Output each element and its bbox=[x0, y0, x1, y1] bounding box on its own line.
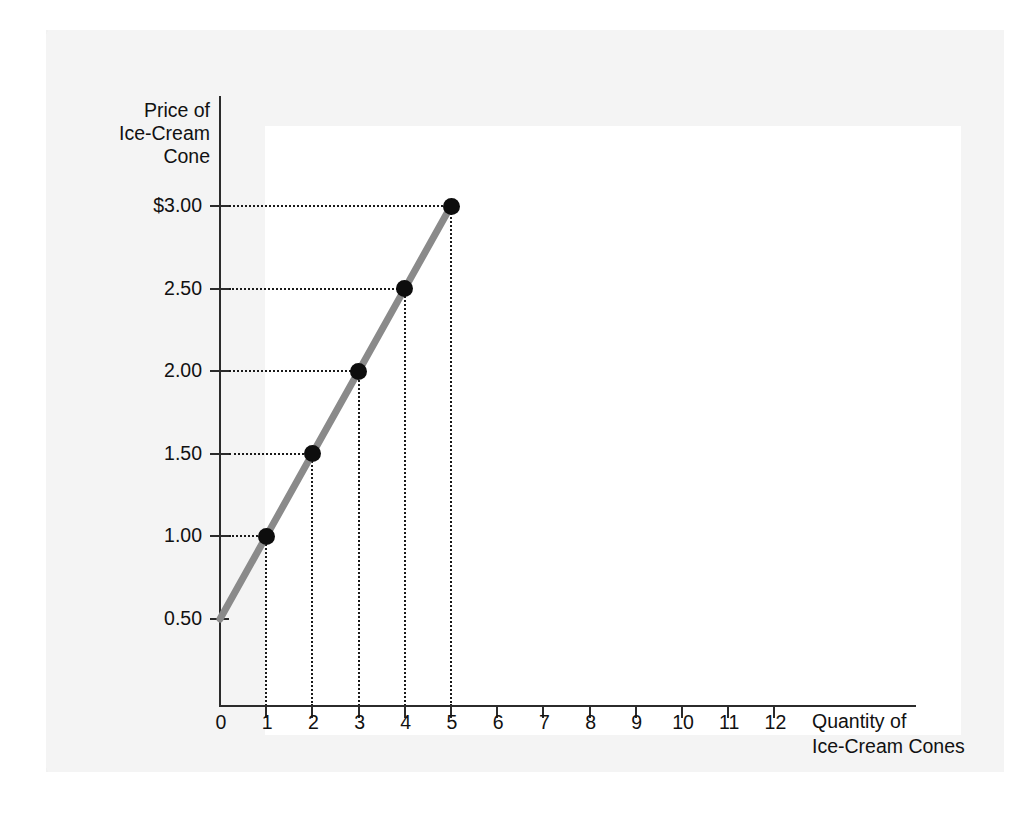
x-tick-label: 6 bbox=[478, 711, 518, 733]
x-tick-label: 12 bbox=[755, 711, 795, 733]
x-tick-label: 1 bbox=[247, 711, 287, 733]
x-tick-label: 5 bbox=[432, 711, 472, 733]
y-axis-line bbox=[219, 96, 221, 707]
x-tick-label: 4 bbox=[386, 711, 426, 733]
x-tick-label: 7 bbox=[524, 711, 564, 733]
y-tick-label: 2.50 bbox=[90, 279, 202, 299]
y-tick-mark bbox=[210, 453, 229, 455]
y-tick-label: $3.00 bbox=[90, 196, 202, 216]
x-tick-label: 11 bbox=[709, 711, 749, 733]
x-tick-label: 10 bbox=[663, 711, 703, 733]
x-tick-label: 0 bbox=[201, 711, 241, 733]
y-tick-mark bbox=[210, 618, 229, 620]
plot-area-background bbox=[265, 126, 961, 735]
x-axis-line bbox=[219, 705, 916, 707]
y-axis-title: Price of Ice-Cream Cone bbox=[64, 99, 210, 168]
x-tick-label: 9 bbox=[617, 711, 657, 733]
x-axis-title-line-2: Ice-Cream Cones bbox=[812, 734, 992, 759]
y-axis-title-line-1: Price of bbox=[64, 99, 210, 122]
data-point bbox=[443, 198, 460, 215]
y-tick-mark bbox=[210, 535, 229, 537]
guide-line-horizontal bbox=[229, 370, 359, 372]
y-tick-label: 2.00 bbox=[90, 361, 202, 381]
x-tick-label: 2 bbox=[293, 711, 333, 733]
x-tick-label: 8 bbox=[571, 711, 611, 733]
x-axis-title: Quantity of Ice-Cream Cones bbox=[812, 709, 992, 759]
caption-text-fragment: l bbox=[0, 188, 10, 211]
y-tick-label: 1.00 bbox=[90, 526, 202, 546]
guide-line-vertical bbox=[265, 536, 267, 706]
x-tick-label: 3 bbox=[340, 711, 380, 733]
guide-line-horizontal bbox=[229, 288, 405, 290]
y-tick-label: 0.50 bbox=[90, 609, 202, 629]
figure-page: l Price of Ice-Cream Cone Quantity of Ic… bbox=[0, 0, 1029, 824]
x-axis-title-line-1: Quantity of bbox=[812, 709, 992, 734]
data-point bbox=[350, 363, 367, 380]
guide-line-vertical bbox=[358, 371, 360, 706]
y-tick-mark bbox=[210, 288, 229, 290]
y-tick-mark bbox=[210, 370, 229, 372]
guide-line-vertical bbox=[450, 206, 452, 706]
guide-line-vertical bbox=[311, 454, 313, 706]
guide-line-vertical bbox=[404, 289, 406, 706]
guide-line-horizontal bbox=[229, 205, 451, 207]
data-point bbox=[258, 528, 275, 545]
y-axis-title-line-2: Ice-Cream bbox=[64, 122, 210, 145]
y-tick-label: 1.50 bbox=[90, 444, 202, 464]
y-tick-mark bbox=[210, 205, 229, 207]
y-axis-title-line-3: Cone bbox=[64, 145, 210, 168]
guide-line-horizontal bbox=[229, 453, 312, 455]
